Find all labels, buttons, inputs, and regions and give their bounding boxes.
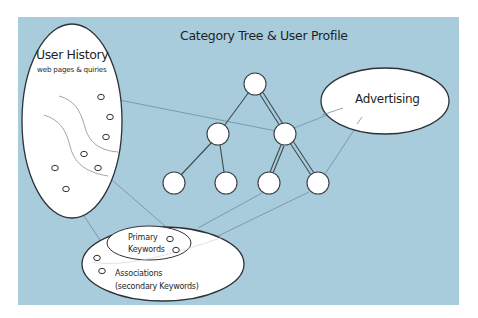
- association-icon: [99, 268, 106, 273]
- history-item-icon: [52, 165, 59, 170]
- tree-node-root: [244, 73, 266, 95]
- associations-label-line2: (secondary Keywords): [115, 283, 199, 291]
- primary-keywords-ellipse: [107, 226, 191, 260]
- primary-keyword-icon: [167, 236, 174, 241]
- user-history-title: User History: [36, 49, 108, 62]
- history-item-icon: [98, 94, 105, 99]
- history-item-icon: [107, 114, 114, 119]
- user-history-subtitle: web pages & quiries: [37, 66, 106, 73]
- advertising-label: Advertising: [355, 93, 420, 105]
- tree-node-leaf-1: [163, 172, 185, 194]
- primary-keyword-icon: [173, 247, 180, 252]
- tree-node-leaf-3: [258, 172, 280, 194]
- associations-label-line1: Associations: [115, 270, 162, 278]
- diagram-canvas: Category Tree & User Profile User Histor…: [0, 0, 478, 318]
- tree-node-leaf-2: [215, 172, 237, 194]
- primary-keywords-label-line2: Keywords: [128, 246, 165, 254]
- tree-node-mid-left: [207, 123, 229, 145]
- tree-node-leaf-4: [307, 172, 329, 194]
- history-item-icon: [103, 134, 110, 139]
- primary-keywords-label-line1: Primary: [128, 234, 158, 242]
- history-item-icon: [95, 165, 102, 170]
- history-item-icon: [63, 186, 70, 191]
- diagram-title: Category Tree & User Profile: [180, 30, 348, 43]
- association-icon: [94, 255, 101, 260]
- tree-node-mid-right: [274, 123, 296, 145]
- history-item-icon: [81, 151, 88, 156]
